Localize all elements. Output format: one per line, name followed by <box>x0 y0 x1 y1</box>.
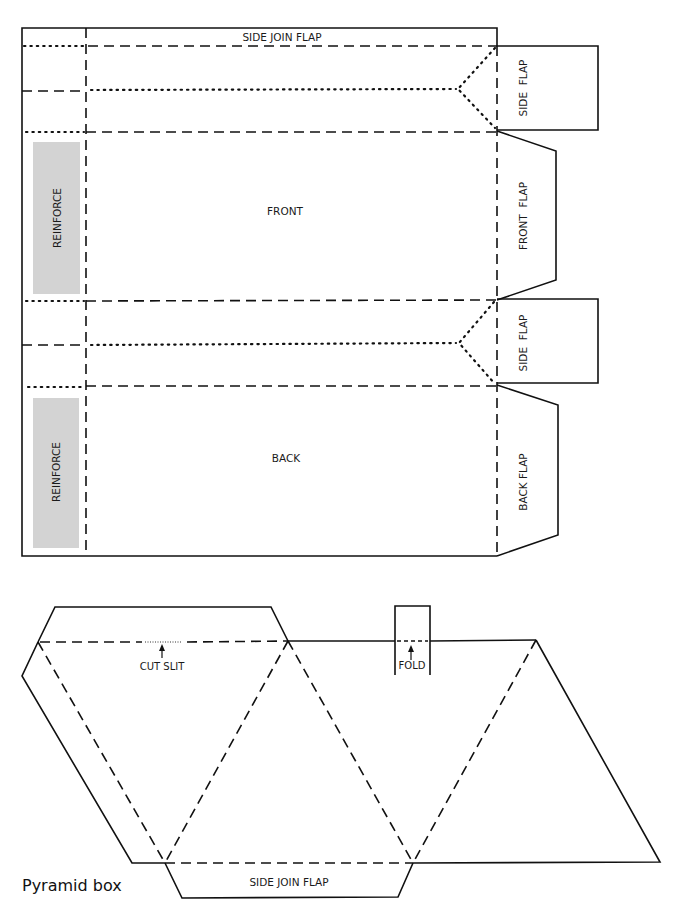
carton-template: SIDE JOIN FLAP FRONT BACK REINFORCE REIN… <box>22 28 598 556</box>
fold-line <box>187 641 288 642</box>
label-fold: FOLD <box>399 660 426 671</box>
label-reinforce-lower: REINFORCE <box>50 442 62 502</box>
pyramid-top-flap-outline <box>38 607 288 642</box>
label-front: FRONT <box>267 205 303 217</box>
carton-outer-cut-line <box>22 28 497 556</box>
label-back: BACK <box>272 452 302 464</box>
label-side-flap-lower: SIDE FLAP <box>517 315 529 372</box>
fold-line <box>413 640 536 863</box>
figure-caption: Pyramid box <box>22 876 122 895</box>
label-side-join-flap-bottom: SIDE JOIN FLAP <box>249 876 328 888</box>
pyramid-template: CUT SLIT FOLD SIDE JOIN FLAP <box>22 606 660 898</box>
label-reinforce-upper: REINFORCE <box>51 188 63 248</box>
label-cut-slit: CUT SLIT <box>140 661 185 672</box>
cut-slit-arrow-icon <box>159 644 165 658</box>
score-line <box>91 343 456 345</box>
fold-arrow-icon <box>408 645 414 660</box>
fold-line <box>38 642 165 863</box>
label-back-flap: BACK FLAP <box>517 453 529 510</box>
score-line <box>91 89 456 90</box>
side-flap-lower-score-v <box>459 302 495 384</box>
side-flap-upper-score-v <box>458 48 495 128</box>
label-front-flap: FRONT FLAP <box>517 182 529 250</box>
fold-line <box>86 300 497 301</box>
label-side-join-flap: SIDE JOIN FLAP <box>242 31 321 43</box>
label-side-flap-upper: SIDE FLAP <box>517 60 529 117</box>
pyramid-right-outline <box>413 640 660 863</box>
fold-line <box>165 641 288 863</box>
pyramid-top-edge <box>430 640 536 641</box>
side-flap-lower-outline <box>497 299 598 383</box>
packaging-templates-diagram: SIDE JOIN FLAP FRONT BACK REINFORCE REIN… <box>0 0 680 908</box>
side-flap-upper-outline <box>497 46 598 130</box>
pyramid-left-flap-outline <box>22 642 165 863</box>
